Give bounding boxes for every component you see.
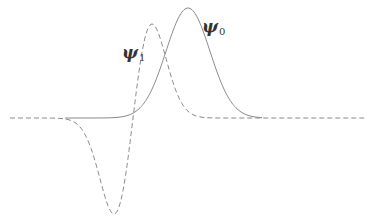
psi1-dashed-curve [10,24,367,214]
psi1-symbol: ψ [122,42,138,62]
psi1-label: ψ1 [122,44,145,66]
wavefunction-diagram [0,0,373,224]
psi0-solid-curve [65,8,262,118]
psi0-subscript: 0 [219,26,225,37]
psi0-label: ψ0 [202,18,225,40]
psi0-symbol: ψ [202,16,218,36]
psi1-subscript: 1 [139,52,145,63]
